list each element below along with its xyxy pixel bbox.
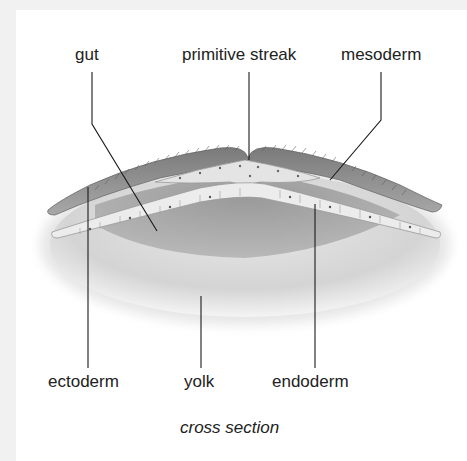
label-gut: gut	[75, 46, 99, 63]
label-mesoderm: mesoderm	[341, 46, 421, 63]
label-endoderm: endoderm	[272, 373, 349, 390]
caption-cross-section: cross section	[180, 419, 279, 436]
label-ectoderm: ectoderm	[48, 373, 119, 390]
label-yolk: yolk	[184, 373, 214, 390]
embryo-cross-section-illustration	[0, 0, 467, 461]
label-primitive-streak: primitive streak	[182, 46, 296, 63]
